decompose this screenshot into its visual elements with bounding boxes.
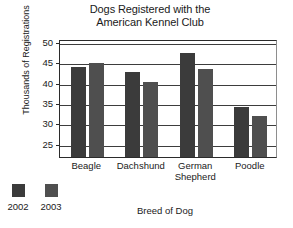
bar-beagle-2002 bbox=[71, 67, 86, 157]
gridline-50 bbox=[60, 44, 276, 45]
bar-beagle-2003 bbox=[89, 63, 104, 157]
y-tick-label-30: 30 bbox=[29, 119, 53, 129]
bar-poodle-2003 bbox=[252, 116, 267, 157]
legend-swatch-2002 bbox=[12, 184, 25, 197]
y-tick-label-40: 40 bbox=[29, 79, 53, 89]
legend-label-2002: 2002 bbox=[5, 201, 31, 212]
bar-german-shepherd-2002 bbox=[180, 53, 195, 157]
bar-german-shepherd-2003 bbox=[198, 69, 213, 157]
legend-swatch-2003 bbox=[45, 184, 58, 197]
plot-area bbox=[59, 40, 277, 158]
bar-dachshund-2003 bbox=[143, 82, 158, 157]
chart-title-line-2: American Kennel Club bbox=[55, 16, 245, 29]
legend-label-2003: 2003 bbox=[38, 201, 64, 212]
chart-title: Dogs Registered with the American Kennel… bbox=[55, 3, 245, 29]
y-tick-label-35: 35 bbox=[29, 99, 53, 109]
y-tick-label-25: 25 bbox=[29, 140, 53, 150]
y-tick-label-45: 45 bbox=[29, 58, 53, 68]
chart-screenshot: Dogs Registered with the American Kennel… bbox=[0, 0, 293, 228]
x-tick-label-poodle: Poodle bbox=[216, 161, 284, 172]
x-axis-title: Breed of Dog bbox=[110, 205, 220, 216]
bar-poodle-2002 bbox=[234, 107, 249, 157]
chart-title-line-1: Dogs Registered with the bbox=[55, 3, 245, 16]
bar-dachshund-2002 bbox=[125, 72, 140, 157]
y-tick-label-50: 50 bbox=[29, 38, 53, 48]
